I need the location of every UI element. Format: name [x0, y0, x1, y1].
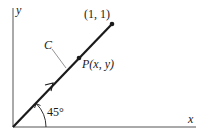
point-p-dot [77, 56, 82, 61]
endpoint-dot [110, 22, 115, 27]
angle-arc [36, 104, 46, 127]
angle-label: 45° [47, 106, 64, 118]
curve-c-leader [52, 49, 66, 68]
point-p-label: P(x, y) [82, 58, 114, 70]
diagram-canvas: y x (1, 1) P(x, y) C 45° [0, 0, 202, 135]
curve-c-label: C [44, 39, 52, 51]
endpoint-label: (1, 1) [84, 8, 110, 20]
y-axis-label: y [16, 4, 21, 16]
x-axis-label: x [188, 113, 193, 125]
